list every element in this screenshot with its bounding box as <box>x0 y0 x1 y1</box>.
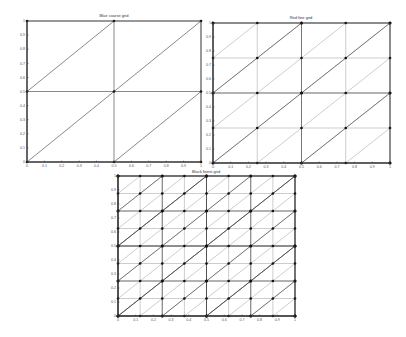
x-tick-label: 0.4 <box>281 165 286 169</box>
mesh-node <box>139 262 142 265</box>
mesh-node <box>183 262 186 265</box>
mesh-diagonal <box>229 194 251 212</box>
mesh-node <box>183 280 186 283</box>
y-tick-label: 0.5 <box>20 90 25 94</box>
y-tick-label: 0.9 <box>20 33 25 37</box>
mesh-node <box>161 245 164 248</box>
y-tick-label: 0.9 <box>111 188 116 192</box>
mesh-diagonal <box>207 246 229 264</box>
mesh-diagonal <box>257 128 301 163</box>
mesh-diagonal <box>118 281 140 299</box>
mesh-node <box>344 57 347 60</box>
y-tick-label: 0.1 <box>206 147 211 151</box>
y-tick-label: 0.6 <box>206 77 211 81</box>
mesh-node <box>249 262 252 265</box>
mesh-node <box>183 210 186 213</box>
mesh-diagonal <box>273 299 295 317</box>
mesh-node <box>272 227 275 230</box>
y-tick-label: 0.4 <box>20 104 25 108</box>
y-tick-label: 0.5 <box>111 244 116 248</box>
mesh-node <box>139 280 142 283</box>
mesh-node <box>249 280 252 283</box>
mesh-diagonal <box>257 58 301 93</box>
y-tick-label: 1 <box>23 19 25 23</box>
mesh-node <box>272 245 275 248</box>
mesh-node <box>227 192 230 195</box>
mesh-node <box>205 280 208 283</box>
y-tick-label: 1 <box>209 21 211 25</box>
y-tick-label: 0.3 <box>111 272 116 276</box>
x-tick-label: 0.5 <box>112 164 117 168</box>
x-tick-label: 0 <box>117 318 119 322</box>
y-tick-label: 0.1 <box>20 146 25 150</box>
mesh-node <box>300 127 303 130</box>
mesh-node <box>249 192 252 195</box>
x-tick-label: 0.4 <box>94 164 99 168</box>
x-tick-label: 0.1 <box>228 165 233 169</box>
y-tick-label: 0.7 <box>111 216 116 220</box>
mesh-node <box>205 210 208 213</box>
x-tick-label: 0.7 <box>146 164 151 168</box>
x-tick-label: 0.2 <box>246 165 251 169</box>
x-tick-label: 0.9 <box>370 165 375 169</box>
mesh-node <box>227 262 230 265</box>
y-tick-label: 0.2 <box>206 133 211 137</box>
y-tick-label: 0.6 <box>20 76 25 80</box>
plot-black-finest-grid: Black finest grid 00.10.20.30.40.50.60.7… <box>111 169 297 322</box>
x-tick-label: 0.8 <box>257 318 262 322</box>
x-tick-label: 1 <box>294 318 296 322</box>
x-tick-label: 0.4 <box>186 318 191 322</box>
mesh-diagonal <box>162 281 184 299</box>
mesh-diagonal <box>229 229 251 247</box>
mesh-node <box>344 127 347 130</box>
mesh-node <box>227 297 230 300</box>
y-tick-label: 0.7 <box>206 63 211 67</box>
mesh-node <box>183 192 186 195</box>
mesh-node <box>249 297 252 300</box>
mesh-diagonal <box>27 92 114 163</box>
plot-red-fine-grid: Red fine grid 00.10.20.30.40.50.60.70.80… <box>206 15 392 169</box>
x-tick-label: 0.7 <box>334 165 339 169</box>
mesh-diagonal <box>346 128 390 163</box>
figure-canvas: Blue coarse grid 00.10.20.30.40.50.60.70… <box>0 0 406 337</box>
mesh-node <box>205 245 208 248</box>
mesh-diagonal <box>27 21 114 92</box>
mesh-node <box>227 245 230 248</box>
mesh-node <box>300 92 303 95</box>
mesh-node <box>256 57 259 60</box>
mesh-diagonal <box>213 23 257 58</box>
y-tick-label: 0.5 <box>206 91 211 95</box>
mesh-diagonal <box>251 176 273 194</box>
mesh-diagonal <box>346 58 390 93</box>
mesh-diagonal <box>184 194 206 212</box>
mesh-diagonal <box>184 229 206 247</box>
mesh-node <box>161 227 164 230</box>
mesh-node <box>227 280 230 283</box>
y-tick-label: 0.2 <box>111 286 116 290</box>
mesh-node <box>139 227 142 230</box>
mesh-diagonal <box>118 211 140 229</box>
mesh-diagonal <box>140 194 162 212</box>
mesh-node <box>227 210 230 213</box>
y-tick-label: 0.8 <box>20 47 25 51</box>
mesh-node <box>183 227 186 230</box>
plot-blue-coarse-grid: Blue coarse grid 00.10.20.30.40.50.60.70… <box>20 13 202 168</box>
mesh-node <box>272 280 275 283</box>
mesh-node <box>205 192 208 195</box>
mesh-diagonal <box>162 176 184 194</box>
mesh-node <box>183 245 186 248</box>
mesh-diagonal <box>273 264 295 282</box>
x-tick-label: 0.3 <box>169 318 174 322</box>
mesh-node <box>344 92 347 95</box>
x-tick-label: 0.8 <box>352 165 357 169</box>
y-tick-label: 0.7 <box>20 62 25 66</box>
mesh-node <box>205 227 208 230</box>
mesh-diagonal <box>162 211 184 229</box>
mesh-diagonal <box>140 229 162 247</box>
mesh-node <box>256 127 259 130</box>
mesh-diagonal <box>114 21 201 92</box>
mesh-node <box>139 245 142 248</box>
mesh-node <box>205 297 208 300</box>
x-tick-label: 0.7 <box>239 318 244 322</box>
x-tick-label: 0.5 <box>204 318 209 322</box>
